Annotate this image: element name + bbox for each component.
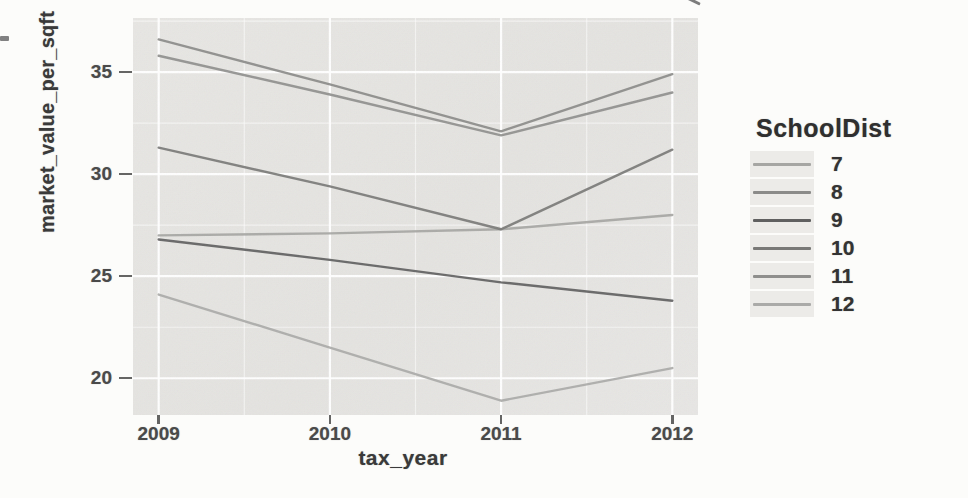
legend-entry-label: 12 bbox=[831, 292, 854, 316]
legend-key bbox=[750, 151, 814, 177]
legend-key-line-icon bbox=[753, 247, 811, 250]
legend-entry-7: 7 bbox=[750, 151, 950, 177]
axis-tick-mark bbox=[329, 415, 331, 424]
axis-tick-mark bbox=[157, 415, 159, 424]
x-tick-label-2010: 2010 bbox=[292, 423, 368, 445]
legend-entry-label: 9 bbox=[831, 208, 843, 232]
x-axis-title: tax_year bbox=[318, 446, 488, 470]
legend-entry-label: 8 bbox=[831, 180, 843, 204]
legend-entry-8: 8 bbox=[750, 179, 950, 205]
legend-key-line-icon bbox=[753, 275, 811, 278]
legend-entry-label: 7 bbox=[831, 152, 843, 176]
legend-key-line-icon bbox=[753, 303, 811, 306]
axis-tick-mark bbox=[119, 275, 132, 277]
legend-key bbox=[750, 291, 814, 317]
axis-tick-mark bbox=[119, 173, 132, 175]
legend-entry-11: 11 bbox=[750, 263, 950, 289]
legend-key bbox=[750, 235, 814, 261]
plot-panel bbox=[133, 18, 698, 415]
legend-key bbox=[750, 207, 814, 233]
legend-key-line-icon bbox=[753, 191, 811, 194]
plot-svg bbox=[133, 18, 698, 415]
legend-entry-label: 11 bbox=[831, 264, 853, 288]
legend-entry-10: 10 bbox=[750, 235, 950, 261]
legend-entry-12: 12 bbox=[750, 291, 950, 317]
legend-key-line-icon bbox=[753, 163, 811, 166]
legend-title: SchoolDist bbox=[756, 114, 950, 143]
legend-entry-9: 9 bbox=[750, 207, 950, 233]
legend-key-line-icon bbox=[753, 219, 811, 222]
axis-tick-mark bbox=[119, 71, 132, 73]
axis-tick-mark bbox=[119, 377, 132, 379]
scan-artifact-mark bbox=[684, 0, 700, 5]
y-tick-label-20: 20 bbox=[64, 367, 112, 389]
scan-grain-overlay bbox=[133, 18, 698, 415]
legend-key bbox=[750, 179, 814, 205]
y-tick-label-30: 30 bbox=[64, 163, 112, 185]
legend: SchoolDist 7 8 9 10 11 12 bbox=[750, 114, 950, 319]
x-tick-label-2012: 2012 bbox=[634, 423, 710, 445]
scanned-chart-page: market_value_per_sqft 35 30 25 20 2009 2… bbox=[0, 0, 968, 498]
axis-tick-mark bbox=[671, 415, 673, 424]
legend-key bbox=[750, 263, 814, 289]
x-tick-label-2009: 2009 bbox=[121, 423, 197, 445]
scan-artifact-mark bbox=[0, 36, 9, 41]
axis-tick-mark bbox=[500, 415, 502, 424]
x-tick-label-2011: 2011 bbox=[463, 423, 539, 445]
legend-entry-label: 10 bbox=[831, 236, 854, 260]
y-tick-label-25: 25 bbox=[64, 265, 112, 287]
y-tick-label-35: 35 bbox=[64, 61, 112, 83]
